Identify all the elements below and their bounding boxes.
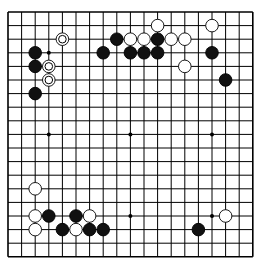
- black-stone[interactable]: [151, 47, 164, 60]
- black-stone[interactable]: [56, 223, 69, 236]
- black-stone[interactable]: [29, 60, 42, 73]
- white-stone[interactable]: [83, 210, 96, 223]
- black-stone[interactable]: [138, 47, 151, 60]
- black-stone[interactable]: [219, 74, 232, 87]
- white-stone[interactable]: [70, 223, 83, 236]
- white-stone[interactable]: [179, 33, 192, 46]
- black-stone[interactable]: [124, 47, 137, 60]
- star-point: [47, 132, 51, 136]
- black-stone[interactable]: [29, 87, 42, 100]
- white-stone[interactable]: [43, 60, 56, 73]
- black-stone[interactable]: [70, 210, 83, 223]
- black-stone[interactable]: [206, 47, 219, 60]
- white-stone[interactable]: [206, 19, 219, 32]
- star-point: [210, 132, 214, 136]
- go-board[interactable]: [0, 0, 257, 276]
- white-stone[interactable]: [29, 210, 42, 223]
- black-stone[interactable]: [97, 223, 110, 236]
- black-stone[interactable]: [83, 223, 96, 236]
- star-point: [210, 214, 214, 218]
- white-stone[interactable]: [138, 33, 151, 46]
- white-stone[interactable]: [151, 19, 164, 32]
- black-stone[interactable]: [97, 47, 110, 60]
- black-stone[interactable]: [151, 33, 164, 46]
- white-stone[interactable]: [56, 33, 69, 46]
- star-point: [47, 51, 51, 55]
- black-stone[interactable]: [29, 47, 42, 60]
- white-stone[interactable]: [219, 210, 232, 223]
- star-point: [128, 214, 132, 218]
- white-stone[interactable]: [124, 33, 137, 46]
- white-stone[interactable]: [43, 74, 56, 87]
- white-stone[interactable]: [29, 183, 42, 196]
- white-stone[interactable]: [29, 223, 42, 236]
- black-stone[interactable]: [43, 210, 56, 223]
- black-stone[interactable]: [111, 33, 124, 46]
- white-stone[interactable]: [179, 60, 192, 73]
- star-point: [128, 132, 132, 136]
- black-stone[interactable]: [192, 223, 205, 236]
- white-stone[interactable]: [165, 33, 178, 46]
